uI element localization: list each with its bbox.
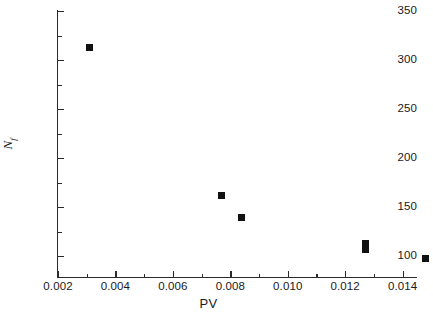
x-tick-major [345, 271, 346, 277]
y-tick-minor [58, 85, 62, 86]
y-axis-title-subscript: f [8, 138, 18, 141]
x-tick-major [230, 271, 231, 277]
y-tick-major [58, 256, 64, 257]
y-tick-major [58, 158, 64, 159]
y-tick-minor [58, 232, 62, 233]
x-tick-label: 0.008 [200, 280, 260, 292]
y-tick-major [58, 207, 64, 208]
x-tick-minor [259, 274, 260, 278]
y-axis-title: Nf [0, 124, 18, 164]
x-tick-major [403, 271, 404, 277]
y-tick-minor [58, 134, 62, 135]
x-tick-major [288, 271, 289, 277]
y-tick-label: 350 [371, 5, 417, 17]
x-tick-major [173, 271, 174, 277]
x-tick-minor [202, 274, 203, 278]
y-tick-minor [58, 36, 62, 37]
y-tick-label: 250 [371, 103, 417, 115]
data-point [362, 246, 369, 253]
y-tick-major [58, 11, 64, 12]
y-tick-minor [58, 183, 62, 184]
y-tick-label: 300 [371, 54, 417, 66]
data-point [422, 255, 429, 262]
y-tick-label: 150 [371, 201, 417, 213]
y-axis-title-base: N [0, 141, 15, 150]
x-tick-major [115, 271, 116, 277]
data-point [238, 214, 245, 221]
x-tick-label: 0.002 [28, 280, 88, 292]
y-tick-label: 200 [371, 152, 417, 164]
x-tick-label: 0.010 [258, 280, 318, 292]
x-axis-title: PV [0, 296, 417, 311]
y-tick-major [58, 60, 64, 61]
data-point [218, 192, 225, 199]
y-axis-line [57, 10, 58, 278]
x-axis-line [57, 277, 417, 278]
x-tick-label: 0.004 [85, 280, 145, 292]
x-tick-label: 0.014 [373, 280, 433, 292]
x-tick-minor [316, 274, 317, 278]
x-tick-minor [87, 274, 88, 278]
y-tick-major [58, 109, 64, 110]
y-tick-label: 100 [371, 250, 417, 262]
x-tick-label: 0.012 [315, 280, 375, 292]
data-point [86, 44, 93, 51]
x-tick-minor [374, 274, 375, 278]
x-tick-minor [144, 274, 145, 278]
x-tick-label: 0.006 [143, 280, 203, 292]
x-tick-major [58, 271, 59, 277]
